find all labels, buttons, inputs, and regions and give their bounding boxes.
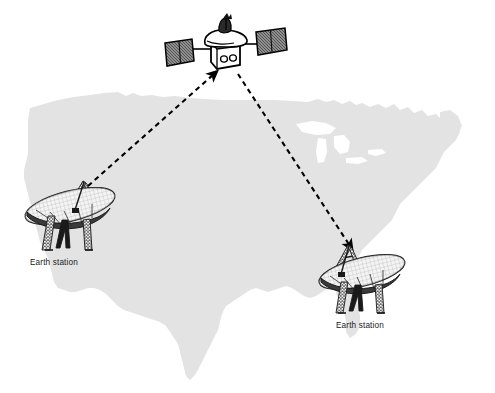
left-station-label: Earth station bbox=[30, 258, 78, 267]
right-station-tower bbox=[336, 282, 385, 313]
satellite-dish-antenna bbox=[205, 13, 247, 47]
right-station-label: Earth station bbox=[336, 321, 384, 330]
right-solar-panel bbox=[256, 28, 287, 55]
diagram-canvas: Earth station bbox=[0, 0, 495, 393]
left-station-tower bbox=[42, 216, 93, 250]
transponder-aperture-left bbox=[221, 56, 228, 62]
satellite bbox=[165, 13, 287, 69]
transponder-aperture-right bbox=[230, 55, 237, 61]
left-solar-panel bbox=[165, 39, 194, 66]
satellite-communication-diagram: Earth station bbox=[0, 0, 495, 393]
